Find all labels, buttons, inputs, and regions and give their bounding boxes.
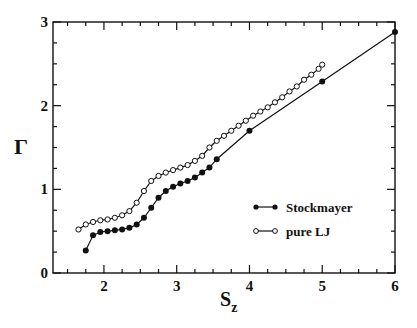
x-tick-label: 4 bbox=[246, 278, 254, 294]
filled-circle-marker-icon bbox=[83, 247, 89, 253]
open-circle-marker-icon bbox=[76, 227, 81, 232]
y-tick-label: 3 bbox=[41, 14, 49, 30]
filled-circle-marker-icon bbox=[119, 226, 125, 232]
open-circle-marker-icon bbox=[280, 95, 285, 100]
filled-circle-marker-icon bbox=[156, 195, 162, 201]
open-circle-marker-icon bbox=[90, 219, 95, 224]
open-circle-marker-icon bbox=[243, 118, 248, 123]
open-circle-marker-icon bbox=[272, 100, 277, 105]
filled-circle-marker-icon bbox=[148, 205, 154, 211]
filled-circle-marker-icon bbox=[163, 188, 169, 194]
open-circle-marker-icon bbox=[134, 200, 139, 205]
open-circle-marker-icon bbox=[141, 188, 146, 193]
filled-circle-marker-icon bbox=[392, 29, 398, 35]
filled-circle-marker-icon bbox=[214, 156, 220, 162]
open-circle-marker-icon bbox=[170, 167, 175, 172]
open-circle-marker-icon bbox=[178, 165, 183, 170]
open-circle-marker-icon bbox=[309, 72, 314, 77]
open-circle-marker-icon bbox=[83, 222, 88, 227]
filled-circle-marker-icon bbox=[90, 232, 96, 238]
filled-circle-marker-icon bbox=[206, 165, 212, 171]
open-circle-marker-icon bbox=[163, 170, 168, 175]
x-tick-label: 6 bbox=[391, 278, 399, 294]
filled-circle-marker-icon bbox=[177, 180, 183, 186]
plot-series bbox=[76, 29, 398, 253]
open-circle-marker-icon bbox=[200, 153, 205, 158]
open-circle-marker-icon bbox=[207, 145, 212, 150]
x-tick-label: 5 bbox=[318, 278, 326, 294]
filled-circle-marker-icon bbox=[105, 228, 111, 234]
open-circle-marker-icon bbox=[265, 105, 270, 110]
open-circle-marker-icon bbox=[127, 208, 132, 213]
open-circle-marker-icon bbox=[273, 229, 278, 234]
x-tick-label: 2 bbox=[100, 278, 108, 294]
open-circle-marker-icon bbox=[287, 89, 292, 94]
filled-circle-marker-icon bbox=[185, 178, 191, 184]
open-circle-marker-icon bbox=[185, 162, 190, 167]
filled-circle-marker-icon bbox=[253, 204, 258, 209]
open-circle-marker-icon bbox=[105, 217, 110, 222]
filled-circle-marker-icon bbox=[97, 229, 103, 235]
filled-circle-marker-icon bbox=[112, 227, 118, 233]
open-circle-marker-icon bbox=[98, 218, 103, 223]
chart: 234560123 Stockmayer pure LJ Γ Sz bbox=[0, 0, 417, 328]
open-circle-marker-icon bbox=[112, 215, 117, 220]
y-axis-title: Γ bbox=[14, 134, 28, 159]
x-tick-label: 3 bbox=[173, 278, 181, 294]
y-tick-label: 0 bbox=[41, 265, 49, 281]
legend-label: Stockmayer bbox=[286, 200, 353, 215]
open-circle-marker-icon bbox=[156, 173, 161, 178]
plot-axes: 234560123 bbox=[41, 14, 400, 294]
filled-circle-marker-icon bbox=[272, 204, 277, 209]
series-line bbox=[86, 32, 395, 250]
filled-circle-marker-icon bbox=[246, 128, 252, 134]
filled-circle-marker-icon bbox=[192, 175, 198, 181]
open-circle-marker-icon bbox=[294, 84, 299, 89]
open-circle-marker-icon bbox=[214, 138, 219, 143]
open-circle-marker-icon bbox=[254, 229, 259, 234]
open-circle-marker-icon bbox=[192, 158, 197, 163]
open-circle-marker-icon bbox=[258, 109, 263, 114]
open-circle-marker-icon bbox=[149, 178, 154, 183]
filled-circle-marker-icon bbox=[199, 170, 205, 176]
filled-circle-marker-icon bbox=[319, 78, 325, 84]
open-circle-marker-icon bbox=[301, 77, 306, 82]
filled-circle-marker-icon bbox=[170, 184, 176, 190]
legend-item-pure-lj: pure LJ bbox=[254, 224, 331, 239]
open-circle-marker-icon bbox=[251, 113, 256, 118]
y-tick-label: 2 bbox=[41, 98, 49, 114]
open-circle-marker-icon bbox=[229, 128, 234, 133]
plot-frame bbox=[53, 22, 395, 273]
open-circle-marker-icon bbox=[320, 62, 325, 67]
filled-circle-marker-icon bbox=[134, 221, 140, 227]
x-axis-title: Sz bbox=[220, 288, 237, 315]
legend-item-stockmayer: Stockmayer bbox=[253, 200, 352, 215]
filled-circle-marker-icon bbox=[141, 215, 147, 221]
filled-circle-marker-icon bbox=[126, 225, 132, 231]
legend-label: pure LJ bbox=[286, 224, 331, 239]
legend: Stockmayer pure LJ bbox=[253, 200, 352, 239]
open-circle-marker-icon bbox=[120, 213, 125, 218]
series-stockmayer bbox=[83, 29, 398, 253]
open-circle-marker-icon bbox=[221, 133, 226, 138]
open-circle-marker-icon bbox=[236, 123, 241, 128]
y-tick-label: 1 bbox=[41, 181, 49, 197]
